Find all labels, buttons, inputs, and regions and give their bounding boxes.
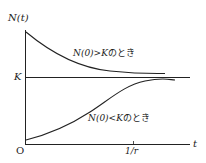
- annotation-upper-arg: (0)>K: [81, 48, 108, 58]
- annotation-lower-arg: (0)<K: [96, 113, 123, 123]
- annotation-lower-n: N: [88, 113, 96, 123]
- x-tick-label: 1/r: [125, 147, 138, 156]
- annotation-upper: N(0)>Kのとき: [73, 49, 135, 58]
- curve-below-k: [26, 79, 175, 140]
- annotation-upper-n: N: [73, 48, 81, 58]
- k-tick-label: K: [14, 72, 21, 82]
- logistic-growth-chart: N(t) K O 1/r t N(0)>Kのとき N(0)<Kのとき: [0, 0, 206, 163]
- y-axis-label: N(t): [8, 13, 29, 23]
- annotation-lower: N(0)<Kのとき: [88, 114, 150, 123]
- origin-label: O: [16, 146, 24, 156]
- annotation-lower-suffix: のとき: [123, 113, 150, 123]
- x-axis-label: t: [193, 139, 197, 149]
- plot-area: [0, 0, 206, 163]
- annotation-upper-suffix: のとき: [108, 48, 135, 58]
